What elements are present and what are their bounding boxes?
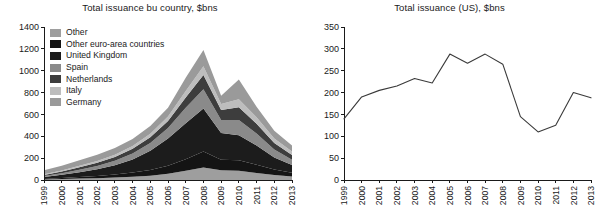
y-tick-label: 200 xyxy=(24,153,39,163)
x-tick-label: 2001 xyxy=(374,186,384,205)
legend-item: Spain xyxy=(50,62,164,74)
x-tick-label: 2008 xyxy=(498,186,508,205)
legend-item: Other xyxy=(50,27,164,39)
x-tick-label: 2010 xyxy=(533,186,543,205)
y-tick-label: 0 xyxy=(334,175,339,185)
x-tick-label: 1999 xyxy=(39,186,49,205)
y-tick-label: 1200 xyxy=(19,44,39,54)
x-tick-label: 2011 xyxy=(551,186,561,205)
x-tick-label: 2003 xyxy=(110,186,120,205)
legend-swatch-icon xyxy=(50,29,61,37)
legend-swatch-icon xyxy=(50,52,61,60)
y-tick-label: 400 xyxy=(24,131,39,141)
x-tick-label: 2009 xyxy=(516,186,526,205)
legend-swatch-icon xyxy=(50,98,61,106)
x-tick-label: 2004 xyxy=(128,186,138,205)
x-tick-label: 2006 xyxy=(463,186,473,205)
legend-item: United Kingdom xyxy=(50,50,164,62)
legend-label: Other euro-area countries xyxy=(66,40,164,49)
x-tick-label: 2010 xyxy=(234,186,244,205)
x-tick-label: 2007 xyxy=(480,186,490,205)
x-tick-label: 2002 xyxy=(392,186,402,205)
x-tick-label: 2000 xyxy=(57,186,67,205)
legend-item: Germany xyxy=(50,97,164,109)
legend-item: Italy xyxy=(50,85,164,97)
x-tick-label: 2004 xyxy=(427,186,437,205)
y-tick-label: 1400 xyxy=(19,22,39,32)
legend-swatch-icon xyxy=(50,40,61,48)
x-tick-label: 2009 xyxy=(216,186,226,205)
y-tick-label: 200 xyxy=(324,88,339,98)
x-tick-label: 2003 xyxy=(410,186,420,205)
x-tick-label: 2012 xyxy=(569,186,579,205)
y-tick-label: 150 xyxy=(324,110,339,120)
legend-swatch-icon xyxy=(50,75,61,83)
y-tick-label: 1000 xyxy=(19,66,39,76)
x-tick-label: 2012 xyxy=(269,186,279,205)
legend: OtherOther euro-area countriesUnited Kin… xyxy=(50,27,164,108)
x-tick-label: 2005 xyxy=(445,186,455,205)
legend-swatch-icon xyxy=(50,64,61,72)
y-tick-label: 100 xyxy=(324,131,339,141)
legend-label: Netherlands xyxy=(66,75,112,84)
x-tick-label: 2005 xyxy=(145,186,155,205)
panel-stacked-area: Total issuance bu country, $bns 02004006… xyxy=(0,0,300,220)
legend-label: Germany xyxy=(66,98,101,107)
y-tick-label: 250 xyxy=(324,66,339,76)
y-tick-label: 50 xyxy=(329,153,339,163)
x-tick-label: 2013 xyxy=(586,186,596,205)
y-tick-label: 0 xyxy=(34,175,39,185)
x-tick-label: 2013 xyxy=(287,186,297,205)
x-tick-label: 2000 xyxy=(357,186,367,205)
x-tick-label: 2002 xyxy=(92,186,102,205)
x-tick-label: 2006 xyxy=(163,186,173,205)
legend-label: Italy xyxy=(66,86,82,95)
x-tick-label: 2001 xyxy=(75,186,85,205)
x-tick-label: 2007 xyxy=(181,186,191,205)
x-tick-label: 1999 xyxy=(339,186,349,205)
legend-label: Other xyxy=(66,28,88,37)
y-tick-label: 300 xyxy=(324,44,339,54)
y-tick-label: 600 xyxy=(24,110,39,120)
x-tick-label: 2008 xyxy=(199,186,209,205)
legend-item: Other euro-area countries xyxy=(50,39,164,51)
y-tick-label: 800 xyxy=(24,88,39,98)
legend-label: United Kingdom xyxy=(66,51,127,60)
y-tick-label: 350 xyxy=(324,22,339,32)
legend-swatch-icon xyxy=(50,87,61,95)
legend-item: Netherlands xyxy=(50,73,164,85)
figure-container: Total issuance bu country, $bns 02004006… xyxy=(0,0,599,220)
panel-line-chart: Total issuance (US), $bns 05010015020025… xyxy=(300,0,599,220)
right-chart-plot: 0501001502002503003501999200020012002200… xyxy=(300,0,599,220)
x-tick-label: 2011 xyxy=(252,186,262,205)
legend-label: Spain xyxy=(66,63,88,72)
line-series-total-issuance-us xyxy=(344,54,591,132)
